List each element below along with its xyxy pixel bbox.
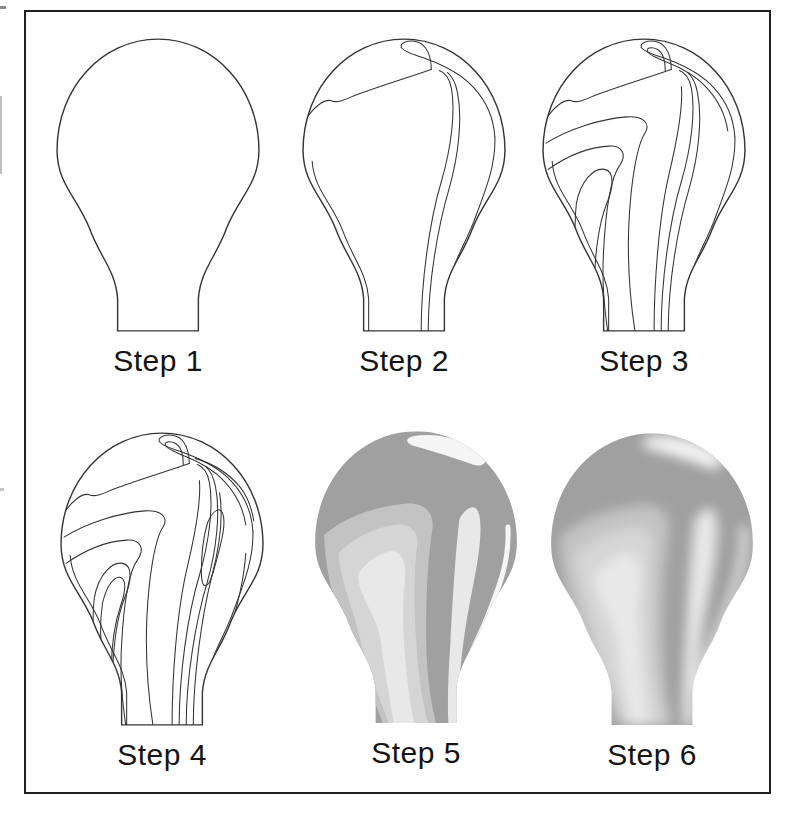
flat-shading-group xyxy=(310,422,522,728)
step-label: Step 4 xyxy=(56,738,268,772)
step-label: Step 1 xyxy=(52,344,264,378)
bulb-silhouette xyxy=(303,39,505,331)
page-edge-artifact xyxy=(0,488,4,491)
figure-panel-step-4: Step 4 xyxy=(56,424,268,772)
bulb-outline-illustration xyxy=(52,30,264,336)
bulb-contours-2-illustration xyxy=(538,30,750,336)
bulb-contours-3-illustration xyxy=(56,424,268,730)
figure-panel-step-2: Step 2 xyxy=(298,30,510,378)
bulb-flat-shaded-illustration xyxy=(310,422,522,728)
bulb-silhouette xyxy=(543,39,745,331)
step-label: Step 6 xyxy=(546,738,758,772)
contour-lines-group xyxy=(306,41,495,331)
figure-panel-step-6: Step 6 xyxy=(546,424,758,772)
figure-panel-step-3: Step 3 xyxy=(538,30,750,378)
bulb-contours-1-illustration xyxy=(298,30,510,336)
bulb-smooth-shaded-illustration xyxy=(546,424,758,730)
contour-lines-group xyxy=(64,435,254,725)
smooth-shading-group xyxy=(546,424,758,730)
page-edge-artifact xyxy=(0,6,6,9)
contour-lines-group xyxy=(546,41,735,331)
figure-panel-step-5: Step 5 xyxy=(310,422,522,770)
step-label: Step 2 xyxy=(298,344,510,378)
bulb-silhouette xyxy=(61,433,263,725)
step-label: Step 5 xyxy=(310,736,522,770)
step-label: Step 3 xyxy=(538,344,750,378)
bulb-silhouette xyxy=(57,39,259,331)
page-edge-artifact xyxy=(0,96,2,174)
figure-panel-step-1: Step 1 xyxy=(52,30,264,378)
